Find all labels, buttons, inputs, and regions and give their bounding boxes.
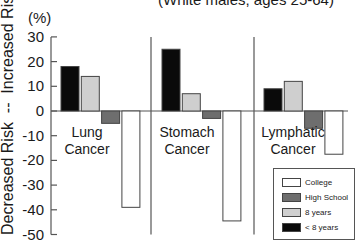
bar-lung-cancer [102,111,120,123]
bar-stomach-cancer [223,111,241,221]
y-tick-label: 20 [10,53,44,70]
category-label: StomachCancer [155,124,219,158]
y-tick-label: 0 [10,102,44,119]
bar-lymphatic-cancer [264,89,282,111]
legend-swatch-less-8-years [282,223,301,232]
y-tick-label: 30 [10,28,44,45]
bar-lung-cancer [122,111,140,207]
legend-swatch-8-years [282,208,301,217]
category-label-line: Stomach [155,124,219,141]
legend-label: High School [305,193,348,202]
legend-item-college: College [282,177,332,188]
legend-label: < 8 years [305,223,338,232]
category-label-line: Lung [57,124,117,141]
bar-lung-cancer [61,67,79,111]
category-label-line: Lymphatic [256,124,330,141]
category-label-line: Cancer [57,141,117,158]
legend-item-8-years: 8 years [282,207,331,218]
y-tick-label: -50 [10,226,44,243]
legend-label: 8 years [305,208,331,217]
legend-item-high-school: High School [282,192,348,203]
legend-swatch-high-school [282,193,301,202]
category-label: LungCancer [57,124,117,158]
legend-item-less-8-years: < 8 years [282,222,338,233]
category-label-line: Cancer [155,141,219,158]
y-tick-label: -40 [10,201,44,218]
category-label-line: Cancer [256,141,330,158]
bar-stomach-cancer [182,94,200,111]
legend: College High School 8 years < 8 years [273,168,355,240]
bar-lung-cancer [81,76,99,111]
category-label: LymphaticCancer [256,124,330,158]
y-tick-label: -20 [10,151,44,168]
legend-swatch-college [282,178,301,187]
bar-lymphatic-cancer [284,81,302,111]
legend-label: College [305,178,332,187]
y-tick-label: -30 [10,176,44,193]
y-tick-label: -10 [10,127,44,144]
y-tick-label: 10 [10,77,44,94]
bar-stomach-cancer [203,111,221,118]
bar-stomach-cancer [162,49,180,111]
